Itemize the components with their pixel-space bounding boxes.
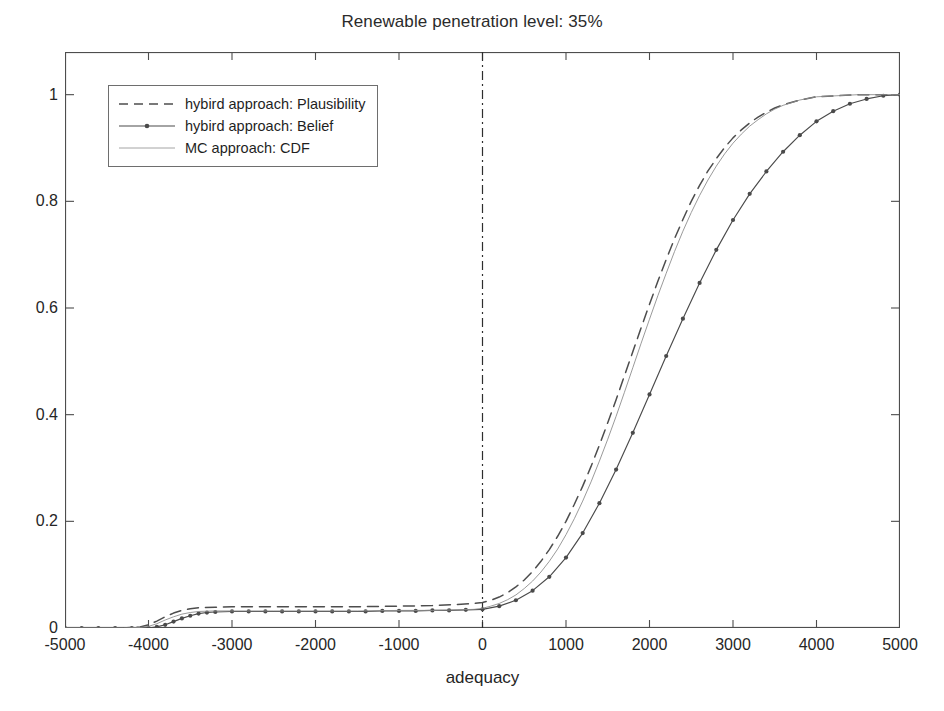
series-marker	[631, 431, 635, 435]
series-marker	[814, 119, 818, 123]
series-marker	[798, 133, 802, 137]
series-marker	[247, 609, 251, 613]
series-marker	[280, 609, 284, 613]
series-marker	[313, 609, 317, 613]
x-tick-label: 2000	[605, 636, 695, 654]
series-marker	[497, 604, 501, 608]
legend-label-plausibility: hybird approach: Plausibility	[185, 96, 366, 112]
x-tick-label: 3000	[688, 636, 778, 654]
legend-item-plausibility: hybird approach: Plausibility	[118, 93, 366, 115]
series-marker	[714, 248, 718, 252]
y-axis-tick-labels: 00.20.40.60.81	[0, 52, 58, 628]
series-marker	[581, 531, 585, 535]
series-marker	[531, 589, 535, 593]
series-marker	[698, 281, 702, 285]
series-marker	[347, 609, 351, 613]
x-tick-label: -3000	[187, 636, 277, 654]
series-marker	[180, 616, 184, 620]
series-marker	[731, 218, 735, 222]
x-tick-label: -1000	[354, 636, 444, 654]
series-marker	[547, 575, 551, 579]
y-tick-label: 0.6	[6, 299, 58, 317]
series-marker	[155, 625, 159, 628]
series-marker	[364, 609, 368, 613]
y-tick-label: 0	[6, 619, 58, 637]
x-tick-label: 4000	[772, 636, 862, 654]
series-marker	[230, 609, 234, 613]
series-marker	[188, 614, 192, 618]
legend-item-mc-cdf: MC approach: CDF	[118, 137, 366, 159]
x-axis-label: adequacy	[65, 668, 900, 688]
series-marker	[330, 609, 334, 613]
x-tick-label: 5000	[855, 636, 944, 654]
series-marker	[197, 612, 201, 616]
x-tick-label: -2000	[271, 636, 361, 654]
series-marker	[865, 97, 869, 101]
legend-swatch-solid-dot	[118, 119, 176, 133]
y-tick-label: 0.2	[6, 512, 58, 530]
series-marker	[647, 392, 651, 396]
series-marker	[831, 109, 835, 113]
legend-label-belief: hybird approach: Belief	[185, 118, 333, 134]
series-marker	[681, 317, 685, 321]
series-marker	[514, 598, 518, 602]
series-marker	[764, 169, 768, 173]
series-marker	[781, 150, 785, 154]
series-marker	[297, 609, 301, 613]
x-tick-label: -4000	[104, 636, 194, 654]
series-marker	[614, 468, 618, 472]
x-axis-tick-labels: -5000-4000-3000-2000-1000010002000300040…	[65, 636, 900, 662]
series-marker	[597, 501, 601, 505]
legend-item-belief: hybird approach: Belief	[118, 115, 366, 137]
series-marker	[414, 609, 418, 613]
y-tick-label: 1	[6, 86, 58, 104]
legend-swatch-dashed	[118, 97, 176, 111]
x-tick-label: 1000	[521, 636, 611, 654]
y-tick-label: 0.8	[6, 192, 58, 210]
series-marker	[263, 609, 267, 613]
series-marker	[664, 354, 668, 358]
series-marker	[564, 556, 568, 560]
y-tick-label: 0.4	[6, 406, 58, 424]
x-tick-label: -5000	[20, 636, 110, 654]
series-marker	[163, 623, 167, 627]
series-marker	[748, 192, 752, 196]
series-marker	[848, 102, 852, 106]
series-marker	[397, 609, 401, 613]
chart-title: Renewable penetration level: 35%	[0, 12, 944, 32]
chart-figure: Renewable penetration level: 35% 00.20.4…	[0, 0, 944, 711]
chart-legend: hybird approach: Plausibility hybird app…	[108, 85, 378, 167]
legend-label-mc-cdf: MC approach: CDF	[185, 140, 310, 156]
series-marker	[171, 620, 175, 624]
x-tick-label: 0	[438, 636, 528, 654]
legend-swatch-thin-solid	[118, 141, 176, 155]
